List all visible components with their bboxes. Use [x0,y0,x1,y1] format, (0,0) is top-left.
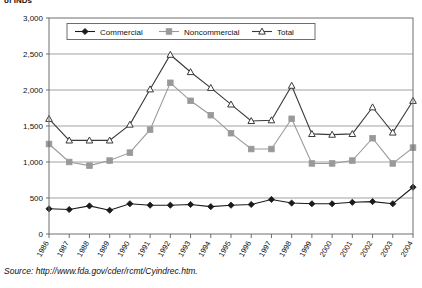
source-caption: Source: http://www.fda.gov/cder/rcmt/Cyi… [4,266,198,276]
svg-text:1990: 1990 [115,240,131,259]
y-axis-tick-labels: 05001,0001,5002,0002,5003,000 [23,14,44,239]
svg-text:Total: Total [277,28,294,37]
svg-text:Noncommercial: Noncommercial [184,28,240,37]
chart-plot-area: 05001,0001,5002,0002,5003,000 1986198719… [0,0,422,258]
svg-text:1999: 1999 [297,240,313,259]
svg-text:1986: 1986 [35,240,51,259]
svg-text:1988: 1988 [75,240,91,259]
svg-text:1992: 1992 [156,240,172,259]
svg-text:2001: 2001 [338,240,354,259]
data-series-group [46,51,417,213]
svg-text:500: 500 [30,194,44,203]
svg-text:0: 0 [39,230,44,239]
x-axis-tick-labels: 1986198719881989199019911992199319941995… [35,240,415,259]
svg-text:2,000: 2,000 [23,86,44,95]
svg-text:1996: 1996 [237,240,253,259]
svg-text:2000: 2000 [318,240,334,259]
svg-text:2004: 2004 [399,240,415,259]
svg-text:1991: 1991 [136,240,152,259]
svg-text:1994: 1994 [196,240,212,259]
svg-text:1997: 1997 [257,240,273,259]
svg-text:1989: 1989 [95,240,111,259]
svg-text:2,500: 2,500 [23,50,44,59]
svg-text:1995: 1995 [217,240,233,259]
svg-text:2003: 2003 [378,240,394,259]
line-chart-svg: 05001,0001,5002,0002,5003,000 1986198719… [0,0,422,258]
svg-text:1993: 1993 [176,240,192,259]
svg-text:1987: 1987 [55,240,71,259]
svg-text:Commercial: Commercial [100,28,143,37]
svg-text:1,500: 1,500 [23,122,44,131]
svg-text:2002: 2002 [358,240,374,259]
svg-text:1998: 1998 [277,240,293,259]
x-axis-tick-marks [49,234,413,238]
chart-legend: CommercialNoncommercialTotal [67,24,315,40]
svg-text:3,000: 3,000 [23,14,44,23]
svg-text:1,000: 1,000 [23,158,44,167]
